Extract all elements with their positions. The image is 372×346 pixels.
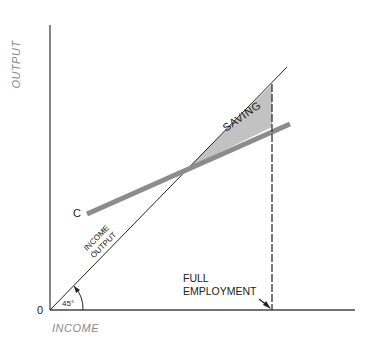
y-axis-label: OUTPUT — [10, 40, 23, 88]
angle-label: 45° — [62, 297, 74, 310]
full-employment-label: FULL EMPLOYMENT — [183, 272, 257, 298]
origin-label: 0 — [37, 304, 43, 317]
consumption-line — [87, 124, 290, 214]
arrowhead-icon — [263, 301, 271, 309]
consumption-label: C — [73, 207, 81, 220]
full-employment-label-line2: EMPLOYMENT — [183, 285, 257, 298]
full-employment-label-line1: FULL — [183, 272, 257, 285]
x-axis-label: INCOME — [52, 322, 99, 335]
